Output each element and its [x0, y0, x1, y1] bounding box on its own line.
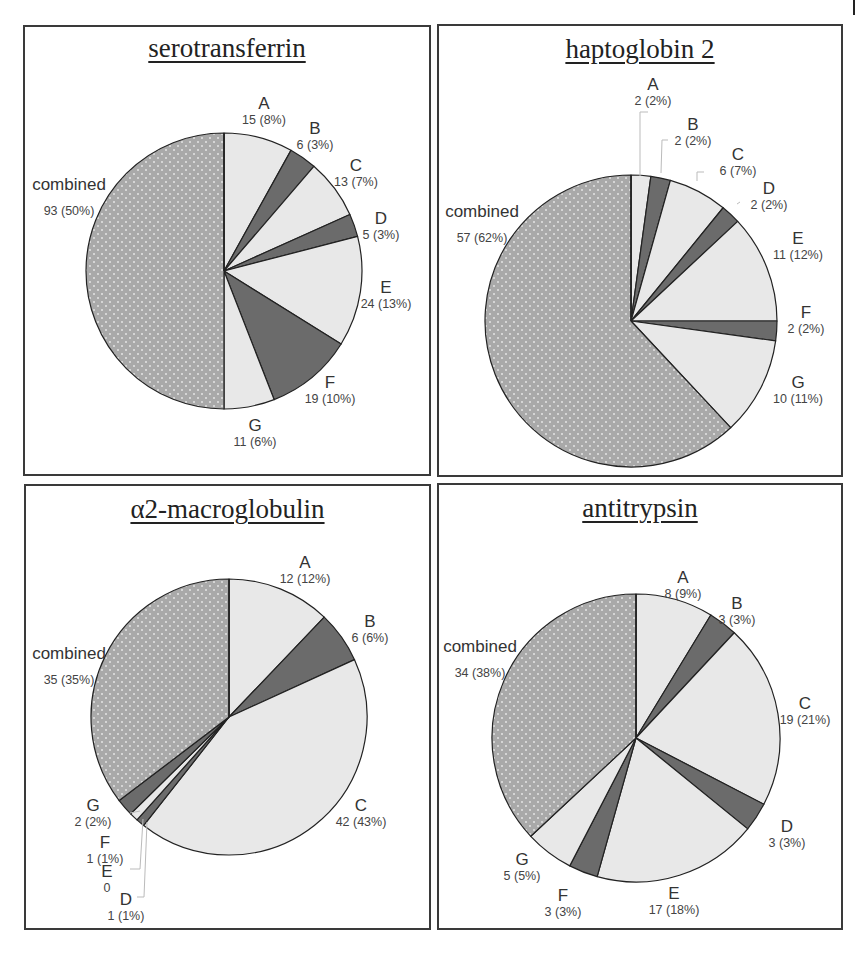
slice-label-D: D1 (1%): [101, 891, 151, 923]
slice-label-D: D3 (3%): [762, 818, 812, 850]
slice-combined: [86, 133, 224, 409]
slice-label-F: F19 (10%): [300, 374, 360, 406]
slice-label-B: B6 (6%): [345, 613, 395, 645]
slice-label-B: B3 (3%): [712, 595, 762, 627]
pie-haptoglobin-2: [485, 175, 777, 467]
slice-label-E: E11 (12%): [766, 230, 830, 262]
slice-label-combined: combined57 (62%): [441, 203, 523, 245]
slice-label-A: A8 (9%): [658, 569, 708, 601]
slice-label-G: G10 (11%): [766, 374, 830, 406]
slice-label-E: E17 (18%): [644, 885, 704, 917]
slice-label-combined: combined93 (50%): [28, 176, 110, 218]
slice-label-A: A2 (2%): [628, 76, 678, 108]
slice-label-combined: combined34 (38%): [439, 638, 521, 680]
slice-label-D: D5 (3%): [356, 210, 406, 242]
slice-label-B: B2 (2%): [668, 116, 718, 148]
slice-label-E: E0: [87, 863, 127, 895]
slice-label-G: G2 (2%): [68, 797, 118, 829]
slice-label-C: C6 (7%): [713, 146, 763, 178]
slice-label-C: C13 (7%): [331, 157, 381, 189]
slice-label-B: B6 (3%): [290, 120, 340, 152]
slice-label-G: G11 (6%): [225, 417, 285, 449]
pie-antitrypsin: [492, 594, 780, 882]
slice-label-F: F1 (1%): [80, 834, 130, 866]
slice-label-G: G5 (5%): [497, 851, 547, 883]
slice-label-F: F2 (2%): [781, 304, 831, 336]
slice-label-F: F3 (3%): [538, 887, 588, 919]
pie-serotransferrin: [86, 133, 362, 409]
pie-a2-macroglobulin: [91, 579, 367, 855]
slice-label-C: C42 (43%): [331, 797, 391, 829]
slice-label-A: A15 (8%): [234, 95, 294, 127]
slice-label-C: C19 (21%): [775, 695, 835, 727]
slice-label-A: A12 (12%): [275, 554, 335, 586]
pie-charts: [0, 0, 861, 959]
slice-label-E: E24 (13%): [356, 279, 416, 311]
slice-label-D: D2 (2%): [744, 180, 794, 212]
slice-label-combined: combined35 (35%): [28, 645, 110, 687]
